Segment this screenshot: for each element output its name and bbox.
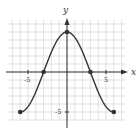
data-point (41, 70, 46, 75)
data-point (65, 30, 70, 35)
data-point (88, 70, 93, 75)
data-point (112, 110, 117, 115)
x-tick-label-neg5: -5 (24, 76, 30, 84)
x-tick-label-5: 5 (104, 76, 108, 84)
y-axis-label: y (62, 5, 69, 15)
data-point (18, 110, 23, 115)
x-axis-arrow-icon (121, 70, 128, 75)
y-axis-arrow-icon (65, 18, 70, 25)
x-axis-label: x (131, 67, 136, 77)
y-tick-label-neg5: -5 (55, 108, 61, 116)
graph: x y -5 5 -5 (0, 0, 140, 133)
